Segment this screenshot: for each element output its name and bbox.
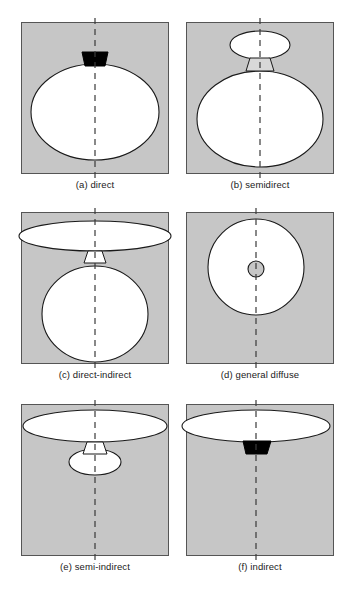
panel-direct-indirect: (c) direct-indirect bbox=[21, 212, 169, 381]
panel-semi-indirect-diagram bbox=[21, 404, 169, 556]
panel-direct: (a) direct bbox=[21, 22, 169, 191]
panel-caption-e: (e) semi-indirect bbox=[21, 561, 169, 573]
panel-caption-b: (b) semidirect bbox=[186, 179, 334, 191]
panel-semidirect: (b) semidirect bbox=[186, 22, 334, 191]
black-lamp-housing-f bbox=[243, 441, 271, 454]
panel-indirect: (f) indirect bbox=[186, 404, 334, 573]
panel-direct-indirect-diagram bbox=[21, 212, 169, 364]
figure-lighting-distributions: (a) direct (b) semidirect (c) direct-ind… bbox=[0, 0, 348, 592]
panel-general-diffuse-diagram bbox=[186, 212, 334, 364]
large-lower-circle-c bbox=[42, 266, 148, 362]
panel-general-diffuse: (d) general diffuse bbox=[186, 212, 334, 381]
panel-semi-indirect: (e) semi-indirect bbox=[21, 404, 169, 573]
panel-caption-f: (f) indirect bbox=[186, 561, 334, 573]
panel-caption-d: (d) general diffuse bbox=[186, 369, 334, 381]
panel-caption-c: (c) direct-indirect bbox=[21, 369, 169, 381]
panel-semidirect-diagram bbox=[186, 22, 334, 174]
panel-direct-diagram bbox=[21, 22, 169, 174]
panel-indirect-diagram bbox=[186, 404, 334, 556]
panel-caption-a: (a) direct bbox=[21, 179, 169, 191]
